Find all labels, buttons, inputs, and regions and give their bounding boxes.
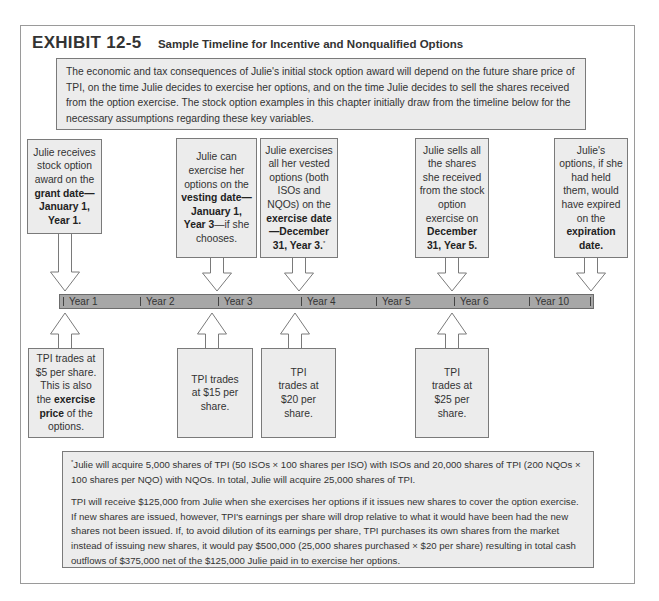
intro-box: The economic and tax consequences of Jul… xyxy=(56,58,586,130)
price-box-year-1: TPI trades at $5 per share. This is also… xyxy=(28,348,104,438)
tick-mark xyxy=(529,297,530,306)
up-arrow-icon xyxy=(197,312,227,352)
tick-mark xyxy=(218,297,219,306)
event-exercise-date: Julie exercises all her vested options (… xyxy=(260,138,338,258)
event-text: Julie exercises all her vested options (… xyxy=(265,145,333,210)
tick-mark xyxy=(63,297,64,306)
event-grant-date: Julie receives stock option award on the… xyxy=(27,139,102,234)
up-arrow-icon xyxy=(50,312,80,352)
event-sale-date: Julie sells all the shares she received … xyxy=(415,138,489,258)
event-bold-text: December 31, Year 5. xyxy=(427,226,477,251)
down-arrow-icon xyxy=(202,258,232,292)
tick-mark xyxy=(140,297,141,306)
tick-mark xyxy=(301,297,302,306)
price-text: TPI trades at $15 per share. xyxy=(181,373,249,414)
event-text: Julie receives stock option award on the xyxy=(33,147,95,185)
timeline-tick-year-6: Year 6 xyxy=(454,295,489,308)
tick-label: Year 5 xyxy=(382,296,411,307)
tick-label: Year 4 xyxy=(307,296,336,307)
price-box-year-3: TPI trades at $15 per share. xyxy=(177,348,253,438)
tick-label: Year 1 xyxy=(69,296,98,307)
tick-label: Year 2 xyxy=(146,296,175,307)
up-arrow-icon xyxy=(437,312,467,352)
event-text: Julie's options, if she had held them, w… xyxy=(559,145,623,224)
timeline-end-mark xyxy=(590,297,591,306)
tick-mark xyxy=(376,297,377,306)
footnote-box: *Julie will acquire 5,000 shares of TPI … xyxy=(62,451,594,568)
price-box-year-4: TPI trades at $20 per share. xyxy=(261,348,336,438)
timeline-tick-year-1: Year 1 xyxy=(63,295,98,308)
tick-label: Year 3 xyxy=(224,296,253,307)
footnote-text: Julie will acquire 5,000 shares of TPI (… xyxy=(71,459,581,485)
event-text: Julie sells all the shares she received … xyxy=(420,145,485,224)
footnote-paragraph-2: TPI will receive $125,000 from Julie whe… xyxy=(71,495,585,568)
up-arrow-icon xyxy=(280,312,310,352)
price-box-year-6: TPI trades at $25 per share. xyxy=(415,348,489,438)
timeline-tick-year-10: Year 10 xyxy=(529,295,569,308)
event-bold-text: expiration date. xyxy=(566,226,615,251)
down-arrow-icon xyxy=(284,258,314,292)
event-vesting-date: Julie can exercise her options on the ve… xyxy=(176,138,257,258)
exhibit-label: EXHIBIT 12-5 xyxy=(32,33,141,52)
event-bold-text: grant date—January 1, Year 1. xyxy=(34,188,94,226)
timeline-tick-year-3: Year 3 xyxy=(218,295,253,308)
event-expiration-date: Julie's options, if she had held them, w… xyxy=(554,138,628,258)
tick-mark xyxy=(454,297,455,306)
event-bold-text: exercise date—December 31, Year 3. xyxy=(266,213,331,251)
down-arrow-icon xyxy=(437,258,467,292)
footnote-paragraph-1: *Julie will acquire 5,000 shares of TPI … xyxy=(71,458,585,487)
price-text: TPI trades at $25 per share. xyxy=(419,366,485,420)
exhibit-header: EXHIBIT 12-5 Sample Timeline for Incenti… xyxy=(32,33,463,53)
price-text: TPI trades at $20 per share. xyxy=(265,366,332,420)
event-text: Julie can exercise her options on the xyxy=(184,151,249,189)
tick-label: Year 6 xyxy=(460,296,489,307)
down-arrow-icon xyxy=(50,234,80,292)
timeline-tick-year-4: Year 4 xyxy=(301,295,336,308)
timeline-tick-year-2: Year 2 xyxy=(140,295,175,308)
exhibit-title: Sample Timeline for Incentive and Nonqua… xyxy=(158,38,463,50)
tick-label: Year 10 xyxy=(535,296,569,307)
down-arrow-icon xyxy=(576,258,606,292)
timeline-bar: Year 1 Year 2 Year 3 Year 4 Year 5 Year … xyxy=(59,294,594,309)
timeline-tick-year-5: Year 5 xyxy=(376,295,411,308)
footnote-marker: * xyxy=(323,239,325,245)
